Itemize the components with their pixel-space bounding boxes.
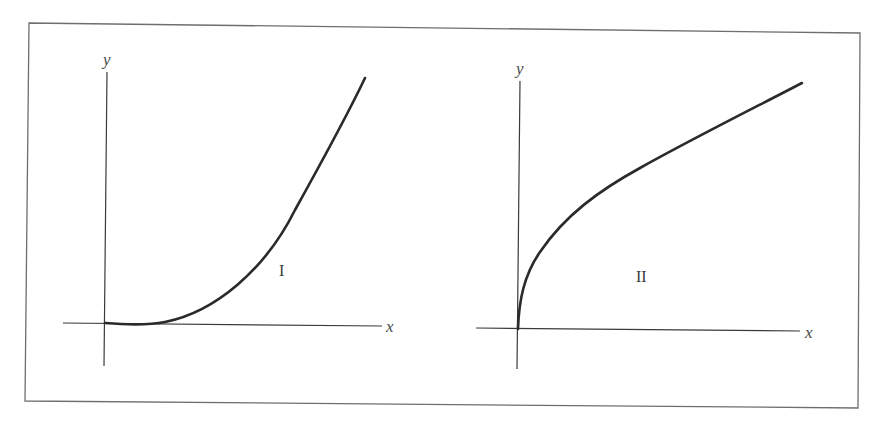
graph-ii-x-axis <box>476 328 800 331</box>
graph-ii: x y II <box>476 59 813 369</box>
graph-i-label: I <box>279 262 284 279</box>
graph-i-curve <box>105 78 365 324</box>
graph-i: x y I <box>63 50 394 366</box>
graph-ii-label: II <box>636 268 647 285</box>
graph-ii-x-label: x <box>804 323 813 342</box>
graph-i-x-label: x <box>385 317 394 336</box>
graph-ii-curve <box>518 83 802 329</box>
graph-ii-y-label: y <box>514 59 524 78</box>
graph-i-y-label: y <box>101 50 111 69</box>
figure-frame <box>25 23 860 408</box>
figure-canvas: x y I x y II <box>0 0 881 426</box>
